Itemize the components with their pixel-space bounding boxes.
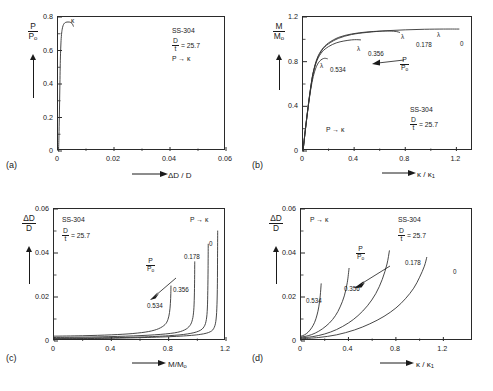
panel-b: M Mo κ / κ1 P → κ SS-304 D t = 25.7 0 [246, 0, 493, 196]
panel-d-curve-label-0: 0 [453, 268, 457, 275]
panel-d-material: SS-304 [398, 216, 426, 224]
panel-b-xtick: 1.2 [450, 154, 460, 163]
panel-b-ytick: 0 [270, 146, 298, 155]
panel-a-y-axis-title: P Po [18, 22, 48, 41]
panel-a-annotation-block: SS-304 D t = 25.7 P → κ [172, 27, 200, 64]
panel-c-annotation-block: SS-304 D t = 25.7 [62, 216, 90, 243]
panel-c-d: D [62, 228, 69, 235]
panel-c-material: SS-304 [62, 216, 90, 224]
panel-d-pressure-arrow-label: P Po [356, 246, 365, 261]
panel-c-curve-label-0534: 0.534 [147, 302, 163, 309]
panel-b-ytick: 0.4 [270, 101, 298, 110]
panel-d-xtick: 0.4 [342, 344, 352, 353]
panel-c-xtick: 0.4 [105, 344, 115, 353]
y-num-c: ΔD [22, 214, 36, 223]
panel-b-path: P → κ [326, 126, 344, 134]
panel-b-lambda-mark-0534: λ [320, 62, 323, 69]
panel-c-p0: Po [146, 265, 155, 273]
panel-a-ytick: 0 [25, 146, 53, 155]
panel-a: P Po ΔD / D SS-304 D t = 25.7 P → κ κ (a… [0, 0, 246, 196]
panel-a-xtick: 0 [55, 154, 59, 163]
y-num-d: ΔD [269, 214, 283, 223]
panel-c-ytick: 0 [21, 336, 49, 345]
panel-c-ytick: 0.04 [21, 248, 49, 257]
panel-d-curve-label-0178: 0.178 [405, 259, 421, 266]
panel-a-xtick: 0.06 [218, 154, 232, 163]
panel-d-dt-fraction: D t [398, 228, 405, 243]
panel-d-path: P → κ [310, 216, 328, 224]
panel-a-material: SS-304 [172, 27, 200, 35]
panel-a-xtick: 0.04 [162, 154, 176, 163]
panel-d-y-axis-title: ΔD D [259, 214, 293, 232]
panel-a-dt-fraction: D t [172, 38, 179, 53]
panel-b-material: SS-304 [410, 106, 438, 114]
curve-0.534 [301, 284, 321, 336]
panel-d-ytick: 0.02 [268, 292, 296, 301]
panel-c-curve-label-0356: 0.356 [173, 286, 189, 293]
panel-b-dt-fraction: D t [410, 117, 417, 132]
panel-c-ytick: 0.02 [21, 292, 49, 301]
panel-b-xtick: 0.8 [399, 154, 409, 163]
panel-a-xtick: 0.02 [106, 154, 120, 163]
panel-a-label: (a) [6, 160, 17, 170]
panel-c-x-axis-label: M/Mo [168, 360, 187, 369]
panel-c-path: P → κ [190, 216, 208, 224]
panel-a-x-axis-label: ΔD / D [168, 171, 192, 180]
panel-c-curve-label-0178: 0.178 [184, 253, 200, 260]
panel-b-x-arrow [382, 167, 416, 179]
panel-a-ytick: 0.8 [25, 12, 53, 21]
panel-a-path: P → κ [172, 55, 200, 63]
curve-0 [54, 231, 218, 339]
panel-c-xtick: 0 [51, 344, 55, 353]
panel-a-d: D [172, 38, 179, 45]
panel-a-ytick: 0.4 [25, 79, 53, 88]
panel-b-x-axis-title: κ / κ1 [417, 170, 435, 179]
panel-d-t: t [398, 235, 405, 243]
panel-d-label: (d) [252, 353, 263, 363]
panel-b-curve-label-0: 0 [460, 40, 464, 47]
panel-b-label: (b) [252, 160, 263, 170]
panel-b-ytick: 1.2 [270, 12, 298, 21]
panel-b-xtick: 0 [300, 154, 304, 163]
panel-b-x-axis-label: κ / κ1 [417, 170, 435, 179]
panel-a-curves [58, 17, 226, 151]
panel-b-lambda-mark-0: λ [437, 31, 440, 38]
panel-b-lambda-mark-0178: λ [401, 33, 404, 40]
panel-d: ΔD D κ / κ1 P → κ SS-304 D t = 25.7 [246, 196, 493, 391]
panel-c-curve-label-0: 0 [209, 240, 213, 247]
panel-a-t: t [172, 45, 179, 53]
panel-a-ytick: 0.6 [25, 45, 53, 54]
panel-d-x-axis-title: κ / κ1 [416, 360, 434, 369]
panel-a-ytick: 0.2 [25, 112, 53, 121]
y-den-b: Mo [273, 31, 285, 41]
panel-d-xtick: 1.2 [437, 344, 447, 353]
panel-c-pp0-fraction: P Po [146, 258, 155, 273]
panel-d-p: P [356, 246, 365, 253]
panel-b-dt-value: = 25.7 [419, 121, 438, 129]
panel-c-x-arrow [132, 357, 166, 369]
panel-d-pp0-fraction: P Po [356, 246, 365, 261]
panel-c-pressure-arrow-label: P Po [146, 258, 155, 273]
figure-root: P Po ΔD / D SS-304 D t = 25.7 P → κ κ (a… [0, 0, 493, 391]
panel-c-y-axis-title: ΔD D [12, 214, 46, 232]
panel-d-xtick: 0 [298, 344, 302, 353]
panel-a-x-axis-title: ΔD / D [168, 171, 192, 180]
panel-c-label: (c) [6, 353, 17, 363]
panel-c-xtick: 1.2 [220, 344, 230, 353]
panel-d-ytick: 0.04 [268, 248, 296, 257]
panel-b-lambda-mark-0356: λ [357, 45, 360, 52]
panel-b-ytick: 0.8 [270, 56, 298, 65]
panel-d-ytick: 0 [268, 336, 296, 345]
curve-0.178 [303, 31, 400, 151]
panel-a-dt-value: = 25.7 [181, 42, 200, 50]
y-den-a: Po [28, 31, 39, 41]
panel-c-dt-fraction: D t [62, 228, 69, 243]
panel-b-xtick: 0.4 [348, 154, 358, 163]
panel-c-p: P [146, 258, 155, 265]
y-den-d: D [269, 223, 283, 233]
panel-b-pressure-arrow [372, 58, 404, 68]
panel-b-t: t [410, 124, 417, 132]
panel-d-ytick: 0.06 [268, 204, 296, 213]
panel-b-y-axis-title: M Mo [263, 22, 295, 41]
panel-d-x-axis-label: κ / κ1 [416, 360, 434, 369]
